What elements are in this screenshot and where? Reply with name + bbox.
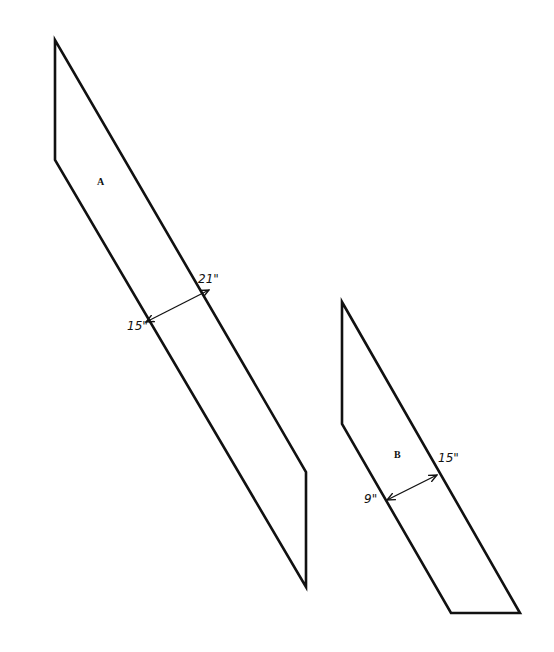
shape-b-outline bbox=[342, 302, 520, 613]
shape-a: A 21" 15" bbox=[55, 40, 306, 587]
shape-b-outer-dimension: 15" bbox=[438, 451, 459, 465]
diagram-canvas: A 21" 15" B 15" 9" bbox=[0, 0, 554, 652]
shape-a-inner-dimension: 15" bbox=[127, 319, 148, 333]
shape-a-outline bbox=[55, 40, 306, 587]
shape-b-label: B bbox=[394, 449, 401, 460]
shape-b-inner-dimension: 9" bbox=[364, 492, 377, 506]
shape-b: B 15" 9" bbox=[342, 302, 520, 613]
shape-a-outer-dimension: 21" bbox=[198, 272, 219, 286]
shape-a-label: A bbox=[97, 176, 105, 187]
